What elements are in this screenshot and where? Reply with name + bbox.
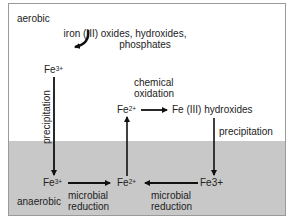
microbial-reduction-left-2: reduction bbox=[68, 201, 109, 212]
microbial-reduction-right-2: reduction bbox=[151, 201, 192, 212]
chemical-oxidation-label-2: oxidation bbox=[134, 88, 174, 99]
precipitation-right-label: precipitation bbox=[219, 126, 273, 137]
source-line-2: phosphates bbox=[60, 39, 190, 50]
fe2-mid-node: Fe2+ bbox=[117, 104, 136, 115]
fe3-bottom-left-node: Fe3+ bbox=[43, 177, 62, 188]
anaerobic-label: anaerobic bbox=[17, 196, 61, 207]
source-line-1: iron (III) oxides, hydroxides, bbox=[60, 28, 190, 39]
microbial-reduction-left-1: microbial bbox=[68, 190, 108, 201]
fe3-top-node: Fe3+ bbox=[44, 64, 63, 75]
fe3-bottom-right-node: Fe3+ bbox=[200, 177, 223, 188]
precipitation-left-label: precipitation bbox=[41, 90, 52, 144]
microbial-reduction-right-1: microbial bbox=[151, 190, 191, 201]
chemical-oxidation-label-1: chemical bbox=[134, 77, 173, 88]
fe2-bottom-node: Fe2+ bbox=[117, 177, 136, 188]
fe3-hydroxides-node: Fe (III) hydroxides bbox=[172, 104, 253, 115]
aerobic-label: aerobic bbox=[17, 13, 50, 24]
